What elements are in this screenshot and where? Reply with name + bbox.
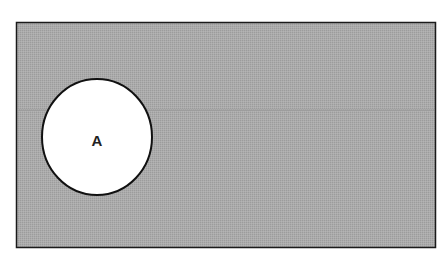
set-a-label: A	[92, 132, 103, 149]
venn-diagram	[0, 0, 445, 263]
